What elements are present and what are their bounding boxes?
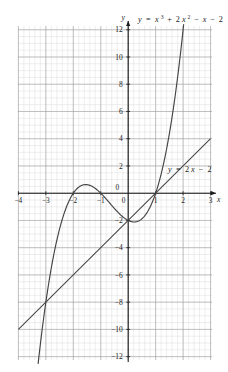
coordinate-plane-svg: −4−3−2−10123 −12−10−8−6−4−2024681012 x y… bbox=[0, 0, 228, 372]
line-lhs: y bbox=[167, 165, 172, 174]
y-tick-label: 2 bbox=[119, 162, 123, 171]
line-equals: = bbox=[176, 165, 181, 174]
line-constant: 2 bbox=[207, 165, 211, 174]
line-operator: − bbox=[199, 165, 204, 174]
x-tick-label: −4 bbox=[14, 196, 22, 205]
line-coefficient: 2 bbox=[185, 165, 189, 174]
cubic-term1-base: x bbox=[154, 15, 159, 24]
y-tick-label: 4 bbox=[119, 134, 123, 143]
y-tick-label: −6 bbox=[115, 271, 123, 280]
cubic-term1-exponent: 3 bbox=[161, 14, 164, 20]
y-tick-label: 12 bbox=[115, 25, 123, 34]
cubic-term2-exponent: 2 bbox=[188, 14, 191, 20]
y-axis-label: y bbox=[121, 13, 126, 22]
y-tick-label: 0 bbox=[115, 183, 119, 192]
x-tick-label: 2 bbox=[181, 196, 185, 205]
y-tick-label: 10 bbox=[115, 53, 123, 62]
x-axis-label: x bbox=[216, 195, 221, 204]
linear-equation-label: y = 2 x − 2 bbox=[167, 165, 212, 174]
y-tick-label: −2 bbox=[115, 216, 123, 225]
y-tick-label: −8 bbox=[115, 298, 123, 307]
cubic-operator2: − bbox=[194, 15, 199, 24]
y-tick-label: −10 bbox=[111, 325, 123, 334]
y-tick-label: −4 bbox=[115, 243, 123, 252]
cubic-operator1: + bbox=[167, 15, 172, 24]
x-tick-label: −3 bbox=[42, 196, 50, 205]
cubic-term2-coefficient: 2 bbox=[176, 15, 180, 24]
cubic-term2-base: x bbox=[181, 15, 186, 24]
cubic-term3: x bbox=[202, 15, 207, 24]
cubic-term4: 2 bbox=[219, 15, 223, 24]
y-tick-label: −12 bbox=[111, 352, 123, 361]
y-tick-label: 6 bbox=[119, 107, 123, 116]
x-tick-label: 3 bbox=[209, 196, 213, 205]
x-tick-label: −1 bbox=[97, 196, 105, 205]
x-tick-label: 0 bbox=[122, 196, 126, 205]
y-tick-label: 8 bbox=[119, 80, 123, 89]
cubic-operator3: − bbox=[210, 15, 215, 24]
svg-text:y = 2: y = 2 x − 2 bbox=[167, 165, 212, 174]
cubic-lhs: y bbox=[137, 15, 142, 24]
line-variable: x bbox=[190, 165, 195, 174]
graph-figure: −4−3−2−10123 −12−10−8−6−4−2024681012 x y… bbox=[0, 0, 228, 372]
cubic-equals: = bbox=[146, 15, 151, 24]
figure-background bbox=[0, 0, 228, 372]
